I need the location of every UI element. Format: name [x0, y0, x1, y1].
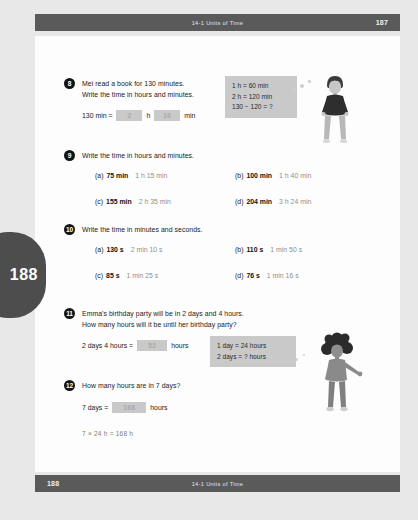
sub-label: (d) [235, 272, 243, 279]
page-sheet: 8 Mei read a book for 130 minutes. Write… [35, 36, 400, 472]
question-number-badge: 10 [64, 224, 75, 235]
sub-question: 75 min [106, 172, 128, 179]
header-page-number: 187 [376, 14, 388, 31]
question-line: Write the time in minutes and seconds. [82, 224, 203, 235]
question-line: Emma's birthday party will be in 2 days … [82, 308, 244, 319]
sub-answer-item[interactable]: (b) 110 s 1 min 50 s [235, 246, 302, 253]
sub-question: 130 s [106, 246, 123, 253]
sub-answer-item[interactable]: (b) 100 min 1 h 40 min [235, 172, 311, 179]
equation-prefix: 130 min = [82, 112, 112, 119]
sub-label: (b) [235, 246, 243, 253]
textbook-page-view: 8 Mei read a book for 130 minutes. Write… [0, 0, 418, 520]
unit-label-hours: hours [150, 404, 167, 411]
sub-answer-item[interactable]: (c) 85 s 1 min 25 s [95, 272, 158, 279]
answer-equation-row: 7 days = 168 hours [82, 402, 168, 413]
hint-line: 2 days = ? hours [217, 352, 289, 363]
question-number-badge: 9 [64, 150, 75, 161]
question-line: How many hours are in 7 days? [82, 380, 180, 391]
answer-input-minutes[interactable]: 10 [154, 110, 180, 121]
sub-label: (c) [95, 198, 103, 205]
question-line: How many hours will it be until her birt… [82, 319, 244, 330]
sub-label: (d) [235, 198, 243, 205]
question-text: How many hours are in 7 days? [82, 380, 180, 391]
hint-line: 130 − 120 = ? [232, 102, 290, 113]
sub-question: 155 min [106, 198, 132, 205]
working-line: 7 × 24 h = 168 h [82, 430, 133, 437]
sub-question: 100 min [246, 172, 272, 179]
sub-question: 76 s [246, 272, 259, 279]
sub-answer: 1 h 40 min [275, 172, 311, 179]
sub-question: 204 min [246, 198, 272, 205]
question-line: Mei read a book for 130 minutes. [82, 78, 194, 89]
hint-box-q8: 1 h = 60 min 2 h = 120 min 130 − 120 = ? [225, 76, 297, 118]
answer-input-hours[interactable]: 168 [112, 402, 146, 413]
question-line: Write the time in hours and minutes. [82, 89, 194, 100]
question-number-badge: 8 [64, 78, 75, 89]
child-curly-hair-figure [307, 332, 373, 418]
equation-prefix: 2 days 4 hours = [82, 342, 133, 349]
sub-answer: 1 min 25 s [122, 272, 158, 279]
header-title: 14-1 Units of Time [35, 14, 400, 31]
unit-label-hours: hours [171, 342, 188, 349]
sub-answer: 1 min 50 s [266, 246, 302, 253]
hint-line: 1 h = 60 min [232, 81, 290, 92]
sub-label: (a) [95, 246, 103, 253]
boy-standing-figure [305, 70, 365, 146]
question-line: Write the time in hours and minutes. [82, 150, 194, 161]
sub-answer-item[interactable]: (a) 130 s 2 min 10 s [95, 246, 162, 253]
sub-label: (c) [95, 272, 103, 279]
question-number-badge: 12 [64, 380, 75, 391]
sub-answer: 2 h 35 min [135, 198, 171, 205]
sub-answer: 1 h 15 min [131, 172, 167, 179]
question-text: Write the time in minutes and seconds. [82, 224, 203, 235]
answer-equation-row: 130 min = 2 h 10 min [82, 110, 195, 121]
footer-page-number: 188 [47, 475, 59, 492]
question-text: Write the time in hours and minutes. [82, 150, 194, 161]
answer-equation-row: 2 days 4 hours = 52 hours [82, 340, 188, 351]
hint-line: 2 h = 120 min [232, 92, 290, 103]
sub-question: 85 s [106, 272, 119, 279]
sub-answer: 2 min 10 s [127, 246, 163, 253]
answer-input-hours[interactable]: 52 [137, 340, 167, 351]
footer-title: 14-1 Units of Time [35, 475, 400, 492]
answer-input-hours[interactable]: 2 [116, 110, 142, 121]
question-text: Emma's birthday party will be in 2 days … [82, 308, 244, 330]
question-text: Mei read a book for 130 minutes. Write t… [82, 78, 194, 100]
unit-label-hours: h [146, 112, 150, 119]
side-tab-page-number: 188 [10, 266, 38, 284]
page-header-bar: 14-1 Units of Time 187 [35, 14, 400, 31]
sub-answer-item[interactable]: (d) 76 s 1 min 16 s [235, 272, 299, 279]
question-number-badge: 11 [64, 308, 75, 319]
sub-answer: 3 h 24 min [275, 198, 311, 205]
sub-label: (a) [95, 172, 103, 179]
hint-line: 1 day = 24 hours [217, 341, 289, 352]
sub-answer-item[interactable]: (a) 75 min 1 h 15 min [95, 172, 167, 179]
page-footer-bar: 14-1 Units of Time 188 [35, 475, 400, 492]
sub-answer-item[interactable]: (c) 155 min 2 h 35 min [95, 198, 171, 205]
sub-answer: 1 min 16 s [263, 272, 299, 279]
sub-label: (b) [235, 172, 243, 179]
equation-prefix: 7 days = [82, 404, 108, 411]
sub-answer-item[interactable]: (d) 204 min 3 h 24 min [235, 198, 311, 205]
sub-question: 110 s [246, 246, 263, 253]
unit-label-minutes: min [184, 112, 195, 119]
hint-box-q11: 1 day = 24 hours 2 days = ? hours [210, 336, 296, 367]
